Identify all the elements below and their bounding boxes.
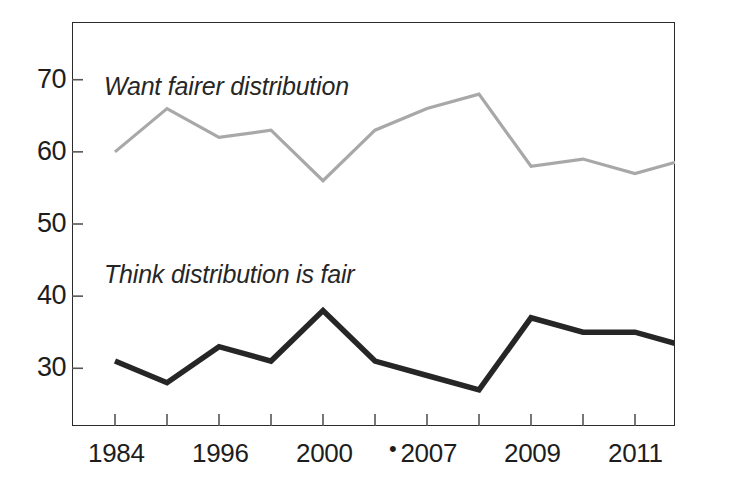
chart-page: 7060504030 Want fairer distribution Thin… (0, 0, 731, 498)
x-tick-label-1996: 1996 (192, 440, 249, 466)
x-tick-pre-mark: • (389, 436, 396, 461)
series-line-want-fairer-distribution (115, 94, 675, 181)
x-tick-label-2000: 2000 (296, 440, 353, 466)
y-tick-label-30: 30 (4, 354, 66, 381)
y-tick-label-40: 40 (4, 282, 66, 309)
y-axis-labels: 7060504030 (0, 0, 66, 498)
x-tick-label-1984: 1984 (88, 440, 145, 466)
series-line-think-distribution-is-fair (115, 311, 675, 390)
x-tick-label-2009: 2009 (504, 440, 561, 466)
y-tick-label-70: 70 (4, 66, 66, 93)
y-tick-label-50: 50 (4, 210, 66, 237)
x-tick-text: 1984 (88, 438, 145, 468)
x-tick-text: 2007 (400, 438, 457, 468)
y-tick-label-60: 60 (4, 138, 66, 165)
x-tick-text: 1996 (192, 438, 249, 468)
x-tick-text: 2011 (608, 438, 663, 468)
x-tick-label-2007: •2007 (389, 440, 457, 466)
x-axis-labels: 198419962000•200720092011 (0, 440, 731, 480)
series-label-think-distribution-is-fair: Think distribution is fair (104, 262, 354, 287)
x-tick-label-2011: 2011 (608, 440, 663, 466)
x-tick-text: 2000 (296, 438, 353, 468)
series-label-want-fairer-distribution: Want fairer distribution (104, 74, 349, 99)
x-tick-text: 2009 (504, 438, 561, 468)
